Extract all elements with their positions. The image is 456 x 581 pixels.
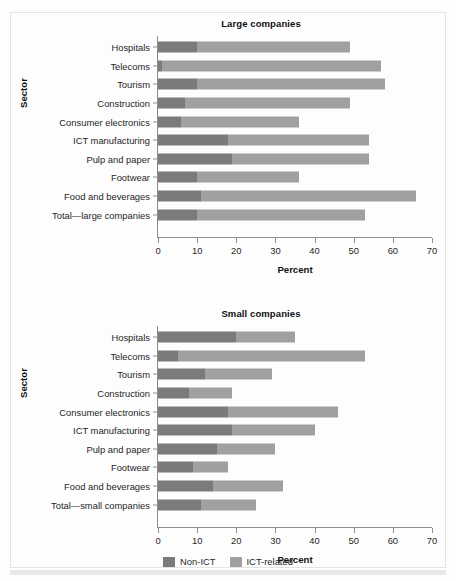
bar-segment-ict-related bbox=[181, 116, 298, 127]
bar-segment-ict-related bbox=[193, 462, 228, 473]
bar-segment-non-ict bbox=[158, 79, 197, 90]
y-axis-tick-label: Pulp and paper bbox=[86, 443, 150, 454]
plot-area-small: HospitalsTelecomsTourismConstructionCons… bbox=[158, 326, 432, 528]
bar-row: Total—large companies bbox=[158, 205, 432, 224]
x-axis-tick-label: 50 bbox=[348, 535, 358, 546]
bar-row: Total—small companies bbox=[158, 495, 432, 514]
y-axis-tick-label: Hospitals bbox=[111, 332, 150, 343]
stacked-bar bbox=[158, 60, 381, 71]
bar-row: Construction bbox=[158, 384, 432, 403]
x-axis-tick bbox=[315, 238, 316, 243]
bar-segment-ict-related bbox=[205, 369, 272, 380]
bar-row: Tourism bbox=[158, 365, 432, 384]
x-axis-tick bbox=[275, 238, 276, 243]
legend-item-ict-related: ICT-related bbox=[230, 556, 293, 567]
y-axis-tick-label: Tourism bbox=[117, 79, 150, 90]
plot-area-large: HospitalsTelecomsTourismConstructionCons… bbox=[158, 36, 432, 238]
stacked-bar bbox=[158, 98, 350, 109]
stacked-bar bbox=[158, 191, 416, 202]
x-axis-tick-label: 50 bbox=[348, 245, 358, 256]
bar-segment-non-ict bbox=[158, 98, 185, 109]
bar-segment-non-ict bbox=[158, 388, 189, 399]
bar-row: Pulp and paper bbox=[158, 150, 432, 169]
bar-segment-non-ict bbox=[158, 153, 232, 164]
x-axis-tick-label: 60 bbox=[388, 245, 398, 256]
x-axis-tick-label: 60 bbox=[388, 535, 398, 546]
bar-segment-ict-related bbox=[189, 388, 232, 399]
x-axis-tick-label: 40 bbox=[309, 245, 319, 256]
panel-title-large: Large companies bbox=[0, 18, 456, 29]
bar-segment-non-ict bbox=[158, 350, 178, 361]
legend-item-non-ict: Non-ICT bbox=[163, 556, 215, 567]
bar-row: Footwear bbox=[158, 458, 432, 477]
stacked-bar bbox=[158, 406, 338, 417]
bar-segment-ict-related bbox=[178, 350, 366, 361]
bar-segment-ict-related bbox=[236, 332, 295, 343]
legend: Non-ICTICT-related bbox=[0, 556, 456, 567]
bar-row: Food and beverages bbox=[158, 187, 432, 206]
x-axis-tick-label: 40 bbox=[309, 535, 319, 546]
bar-segment-non-ict bbox=[158, 135, 228, 146]
x-axis-tick-label: 10 bbox=[192, 245, 202, 256]
bar-segment-non-ict bbox=[158, 191, 201, 202]
panel-large-companies: Large companies Sector HospitalsTelecoms… bbox=[0, 0, 456, 290]
bar-row: Telecoms bbox=[158, 57, 432, 76]
bar-segment-non-ict bbox=[158, 462, 193, 473]
stacked-bar bbox=[158, 42, 350, 53]
bar-segment-ict-related bbox=[162, 60, 381, 71]
y-axis-tick-label: Footwear bbox=[111, 462, 150, 473]
x-axis-tick bbox=[275, 528, 276, 533]
y-axis-title-small: Sector bbox=[18, 368, 29, 398]
x-axis-tick-label: 0 bbox=[155, 535, 160, 546]
figure-container: Large companies Sector HospitalsTelecoms… bbox=[0, 0, 456, 581]
bar-row: Telecoms bbox=[158, 347, 432, 366]
stacked-bar bbox=[158, 425, 315, 436]
bar-segment-non-ict bbox=[158, 369, 205, 380]
stacked-bar bbox=[158, 79, 385, 90]
y-axis-tick-label: Consumer electronics bbox=[59, 406, 150, 417]
stacked-bar bbox=[158, 209, 365, 220]
x-axis-tick-label: 0 bbox=[155, 245, 160, 256]
x-axis-tick bbox=[158, 528, 159, 533]
legend-label: Non-ICT bbox=[180, 556, 215, 567]
legend-swatch-icon bbox=[163, 557, 175, 567]
y-axis-tick-label: Food and beverages bbox=[64, 481, 150, 492]
bar-row: Hospitals bbox=[158, 328, 432, 347]
bar-segment-ict-related bbox=[201, 499, 256, 510]
bar-row: Hospitals bbox=[158, 38, 432, 57]
y-axis-tick-label: Tourism bbox=[117, 369, 150, 380]
bar-segment-non-ict bbox=[158, 481, 213, 492]
bar-segment-non-ict bbox=[158, 406, 228, 417]
bar-segment-non-ict bbox=[158, 499, 201, 510]
y-axis-tick-label: Food and beverages bbox=[64, 191, 150, 202]
stacked-bar bbox=[158, 388, 232, 399]
x-axis-tick-label: 20 bbox=[231, 535, 241, 546]
bar-row: ICT manufacturing bbox=[158, 421, 432, 440]
bar-segment-ict-related bbox=[197, 42, 350, 53]
x-axis-tick-label: 20 bbox=[231, 245, 241, 256]
bar-segment-ict-related bbox=[232, 425, 314, 436]
y-axis-tick-label: ICT manufacturing bbox=[73, 135, 150, 146]
y-axis-tick-label: Hospitals bbox=[111, 42, 150, 53]
x-axis-tick bbox=[158, 238, 159, 243]
bar-segment-ict-related bbox=[201, 191, 416, 202]
bar-rows-large: HospitalsTelecomsTourismConstructionCons… bbox=[158, 36, 432, 238]
bar-segment-ict-related bbox=[197, 79, 385, 90]
x-axis-tick bbox=[432, 528, 433, 533]
bar-row: Consumer electronics bbox=[158, 112, 432, 131]
x-axis-tick bbox=[197, 528, 198, 533]
y-axis-tick-label: Telecoms bbox=[110, 60, 150, 71]
y-axis-tick-label: Total—small companies bbox=[51, 499, 150, 510]
bar-segment-ict-related bbox=[197, 209, 365, 220]
stacked-bar bbox=[158, 116, 299, 127]
bar-segment-ict-related bbox=[228, 135, 369, 146]
x-axis-tick bbox=[315, 528, 316, 533]
x-axis-tick-label: 30 bbox=[270, 535, 280, 546]
legend-swatch-icon bbox=[230, 557, 242, 567]
x-axis-tick bbox=[393, 528, 394, 533]
x-axis-title-large: Percent bbox=[158, 264, 432, 275]
bar-row: Food and beverages bbox=[158, 477, 432, 496]
y-axis-tick-label: ICT manufacturing bbox=[73, 425, 150, 436]
x-axis-tick-label: 70 bbox=[427, 245, 437, 256]
stacked-bar bbox=[158, 369, 272, 380]
